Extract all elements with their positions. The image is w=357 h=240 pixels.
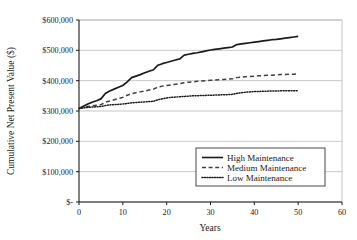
line-chart: $-$100,000$200,000$300,000$400,000$500,0…	[0, 0, 357, 240]
x-tick-label: 30	[206, 208, 214, 217]
y-tick-label: $500,000	[42, 46, 73, 55]
y-tick-label: $300,000	[42, 107, 73, 116]
x-tick-label: 20	[163, 208, 171, 217]
y-axis-title: Cumulative Net Present Value ($)	[6, 47, 17, 175]
legend-label-low: Low Maintenance	[227, 173, 292, 183]
y-tick-label: $100,000	[42, 168, 73, 177]
y-tick-label: $-	[66, 198, 73, 207]
x-tick-label: 50	[294, 208, 302, 217]
y-tick-label: $200,000	[42, 137, 73, 146]
x-axis-title: Years	[199, 223, 221, 233]
x-tick-label: 40	[250, 208, 258, 217]
chart-container: $-$100,000$200,000$300,000$400,000$500,0…	[0, 0, 357, 240]
x-tick-label: 60	[338, 208, 346, 217]
legend-label-medium: Medium Maintenance	[227, 163, 306, 173]
chart-background	[0, 0, 357, 240]
y-tick-label: $400,000	[42, 77, 73, 86]
y-tick-label: $600,000	[42, 16, 73, 25]
chart-legend: High Maintenance Medium Maintenance Low …	[196, 148, 325, 186]
x-tick-label: 0	[77, 208, 81, 217]
x-tick-label: 10	[119, 208, 127, 217]
legend-label-high: High Maintenance	[227, 153, 294, 163]
